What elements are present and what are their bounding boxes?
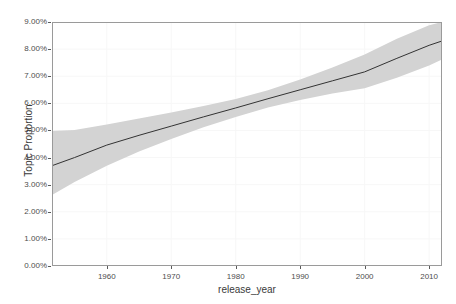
x-tick-label: 1980 bbox=[216, 272, 256, 281]
x-tick-label: 2010 bbox=[409, 272, 449, 281]
y-tick-mark bbox=[48, 22, 51, 23]
x-axis-label: release_year bbox=[52, 284, 442, 295]
y-tick-mark bbox=[48, 266, 51, 267]
plot-panel bbox=[52, 22, 442, 266]
x-tick-label: 2000 bbox=[345, 272, 385, 281]
x-tick-mark bbox=[300, 266, 301, 269]
y-tick-mark bbox=[48, 158, 51, 159]
y-tick-label: 8.00% bbox=[5, 45, 47, 53]
y-tick-mark bbox=[48, 185, 51, 186]
chart-figure: 0.00%1.00%2.00%3.00%4.00%5.00%6.00%7.00%… bbox=[0, 0, 456, 304]
y-tick-label: 9.00% bbox=[5, 18, 47, 26]
y-axis-label: Topic Proportion bbox=[23, 61, 34, 221]
x-tick-mark bbox=[429, 266, 430, 269]
x-tick-mark bbox=[171, 266, 172, 269]
x-tick-label: 1990 bbox=[280, 272, 320, 281]
x-tick-label: 1970 bbox=[151, 272, 191, 281]
x-tick-mark bbox=[236, 266, 237, 269]
confidence-ribbon bbox=[52, 22, 442, 195]
y-tick-mark bbox=[48, 103, 51, 104]
y-tick-mark bbox=[48, 76, 51, 77]
y-tick-label: 1.00% bbox=[5, 235, 47, 243]
x-tick-label: 1960 bbox=[87, 272, 127, 281]
y-tick-mark bbox=[48, 49, 51, 50]
y-tick-mark bbox=[48, 239, 51, 240]
plot-area bbox=[52, 22, 442, 266]
x-tick-mark bbox=[107, 266, 108, 269]
chart-title bbox=[0, 0, 456, 3]
x-tick-mark bbox=[365, 266, 366, 269]
y-tick-mark bbox=[48, 212, 51, 213]
y-tick-label: 0.00% bbox=[5, 262, 47, 270]
y-tick-mark bbox=[48, 130, 51, 131]
